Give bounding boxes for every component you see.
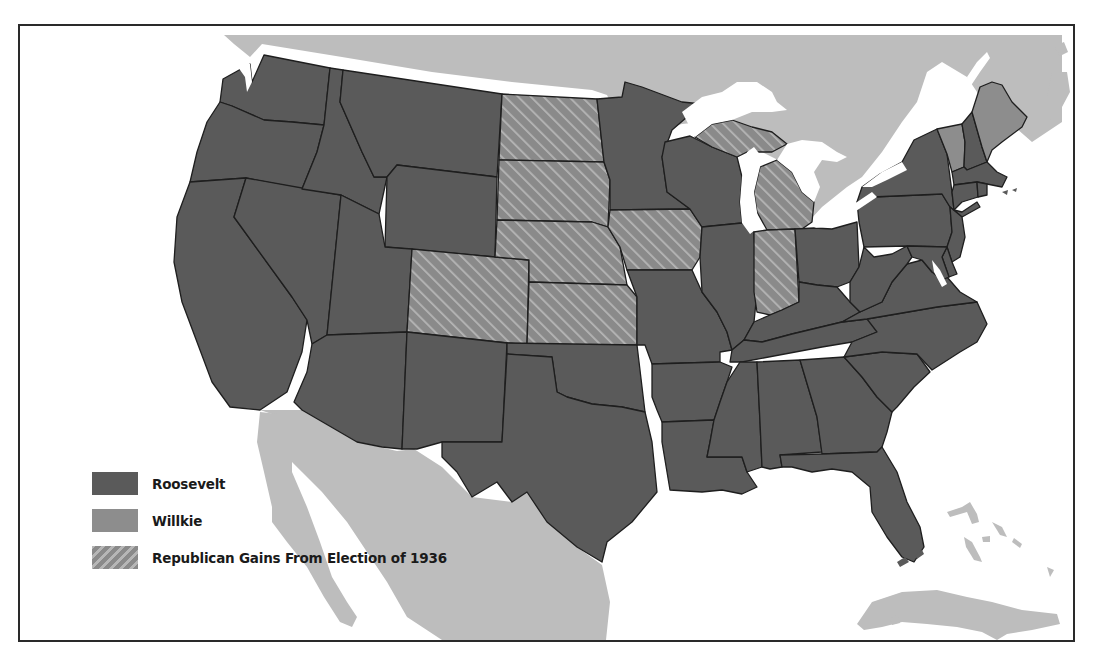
bahamas-6	[1047, 567, 1054, 577]
state-oh	[795, 222, 859, 287]
bahamas-3	[992, 522, 1007, 537]
bahamas-1	[947, 502, 979, 524]
legend-swatch-roosevelt	[92, 472, 138, 495]
cape-cod-islands	[1002, 188, 1017, 195]
legend-swatch-willkie	[92, 509, 138, 532]
bahamas-2	[964, 537, 982, 562]
state-wy	[385, 165, 497, 257]
map-frame: Roosevelt Willkie Republican Gains From …	[18, 24, 1075, 642]
cuba	[857, 590, 1060, 640]
legend-swatch-gains	[92, 546, 138, 569]
state-in	[754, 229, 799, 315]
state-fl	[780, 447, 924, 562]
map-legend: Roosevelt Willkie Republican Gains From …	[92, 472, 447, 583]
state-co	[407, 249, 529, 345]
state-nd	[499, 94, 604, 162]
state-nm	[402, 332, 507, 449]
state-pa	[857, 194, 952, 247]
bahamas-5	[1012, 538, 1022, 548]
legend-item-willkie: Willkie	[92, 509, 447, 532]
state-ri	[977, 182, 987, 197]
state-sd	[497, 160, 610, 227]
legend-label-roosevelt: Roosevelt	[152, 476, 225, 492]
bahamas-4	[982, 536, 990, 542]
legend-item-gains: Republican Gains From Election of 1936	[92, 546, 447, 569]
legend-label-gains: Republican Gains From Election of 1936	[152, 550, 447, 566]
state-ks	[527, 282, 637, 345]
legend-label-willkie: Willkie	[152, 513, 202, 529]
legend-item-roosevelt: Roosevelt	[92, 472, 447, 495]
